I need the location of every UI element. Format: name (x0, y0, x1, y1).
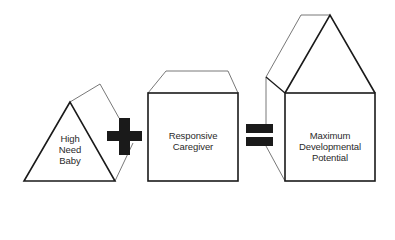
label-line: High (50, 133, 90, 144)
label-line: Responsive (148, 130, 238, 141)
label-line: Caregiver (148, 141, 238, 152)
label-line: Maximum (285, 130, 375, 141)
label-line: Developmental (285, 141, 375, 152)
equals-icon (246, 124, 273, 146)
triangle-label: High Need Baby (50, 133, 90, 166)
label-line: Baby (50, 155, 90, 166)
plus-icon (107, 118, 142, 155)
house-label: Maximum Developmental Potential (285, 130, 375, 163)
label-line: Potential (285, 152, 375, 163)
box-shape (148, 71, 238, 181)
box-label: Responsive Caregiver (148, 130, 238, 152)
label-line: Need (50, 144, 90, 155)
